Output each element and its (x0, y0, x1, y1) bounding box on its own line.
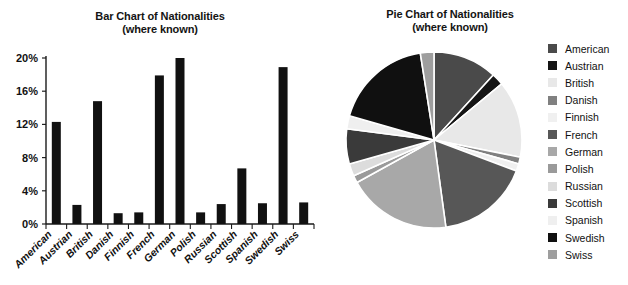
bar-chart-y-tick-label: 16% (16, 85, 38, 97)
bar-chart-bar (196, 212, 205, 224)
legend-swatch-icon (548, 216, 557, 225)
legend-item[interactable]: Finnish (548, 109, 628, 126)
legend-swatch-icon (548, 233, 557, 242)
legend-item[interactable]: Spanish (548, 212, 628, 229)
legend-item-label: American (565, 43, 609, 55)
bar-chart-bars (52, 58, 308, 224)
pie-chart-legend: AmericanAustrianBritishDanishFinnishFren… (548, 40, 628, 263)
legend-item[interactable]: American (548, 40, 628, 57)
legend-item-label: Swedish (565, 232, 605, 244)
bar-chart-plot-area: 0%4%8%12%16%20% AmericanAustrianBritishD… (0, 52, 320, 285)
bar-chart-bar (237, 168, 246, 224)
bar-chart-title-line1: Bar Chart of Nationalities (0, 10, 320, 23)
legend-item-label: Scottish (565, 197, 602, 209)
legend-item-label: Swiss (565, 249, 592, 261)
bar-chart-bar (114, 213, 123, 224)
legend-swatch-icon (548, 182, 557, 191)
legend-item[interactable]: British (548, 74, 628, 91)
legend-item-label: British (565, 77, 594, 89)
legend-swatch-icon (548, 113, 557, 122)
legend-swatch-icon (548, 147, 557, 156)
legend-swatch-icon (548, 96, 557, 105)
legend-item[interactable]: Russian (548, 178, 628, 195)
bar-chart-y-axis-labels: 0%4%8%12%16%20% (16, 52, 46, 230)
legend-swatch-icon (548, 250, 557, 259)
legend-swatch-icon (548, 61, 557, 70)
legend-item[interactable]: French (548, 126, 628, 143)
legend-item-label: Spanish (565, 214, 603, 226)
bar-chart-bar (299, 202, 308, 224)
legend-item-label: Austrian (565, 60, 604, 72)
bar-chart-bar (258, 203, 267, 224)
pie-chart-svg (338, 44, 530, 236)
legend-item-label: German (565, 146, 603, 158)
legend-item-label: Polish (565, 163, 594, 175)
pie-chart-title-line2: (where known) (340, 21, 560, 34)
bar-chart-bar (93, 101, 102, 224)
legend-item[interactable]: Danish (548, 92, 628, 109)
legend-swatch-icon (548, 164, 557, 173)
legend-item-label: Russian (565, 180, 603, 192)
bar-chart-title: Bar Chart of Nationalities (where known) (0, 10, 320, 36)
legend-swatch-icon (548, 44, 557, 53)
legend-item[interactable]: Austrian (548, 57, 628, 74)
bar-chart-bar (176, 58, 185, 224)
legend-item-label: French (565, 129, 598, 141)
legend-item-label: Danish (565, 94, 598, 106)
bar-chart-y-tick-label: 20% (16, 52, 38, 64)
bar-chart-bar (72, 205, 81, 224)
bar-chart-bar (155, 75, 164, 224)
bar-chart-bar (134, 212, 143, 224)
bar-chart-title-line2: (where known) (0, 23, 320, 36)
bar-chart-y-tick-label: 0% (22, 218, 38, 230)
pie-chart-slices (346, 52, 522, 228)
legend-swatch-icon (548, 78, 557, 87)
legend-item-label: Finnish (565, 111, 599, 123)
bar-chart-svg: 0%4%8%12%16%20% AmericanAustrianBritishD… (0, 52, 320, 285)
chart-page: Bar Chart of Nationalities (where known)… (0, 0, 628, 285)
legend-item[interactable]: Scottish (548, 195, 628, 212)
bar-chart-y-tick-label: 8% (22, 152, 38, 164)
bar-chart-panel: Bar Chart of Nationalities (where known)… (0, 0, 320, 285)
bar-chart-bar (279, 67, 288, 224)
bar-chart-bar (52, 122, 61, 224)
bar-chart-bar (217, 204, 226, 224)
legend-item[interactable]: German (548, 143, 628, 160)
pie-chart-title: Pie Chart of Nationalities (where known) (340, 8, 560, 34)
bar-chart-x-axis-labels: AmericanAustrianBritishDanishFinnishFren… (11, 228, 302, 271)
bar-chart-y-tick-label: 4% (22, 185, 38, 197)
legend-item[interactable]: Swedish (548, 229, 628, 246)
pie-chart-title-line1: Pie Chart of Nationalities (340, 8, 560, 21)
legend-swatch-icon (548, 130, 557, 139)
legend-item[interactable]: Polish (548, 160, 628, 177)
legend-item[interactable]: Swiss (548, 246, 628, 263)
legend-swatch-icon (548, 199, 557, 208)
bar-chart-y-tick-label: 12% (16, 118, 38, 130)
pie-chart-panel: Pie Chart of Nationalities (where known)… (320, 0, 628, 285)
pie-chart-plot-area (338, 44, 530, 240)
